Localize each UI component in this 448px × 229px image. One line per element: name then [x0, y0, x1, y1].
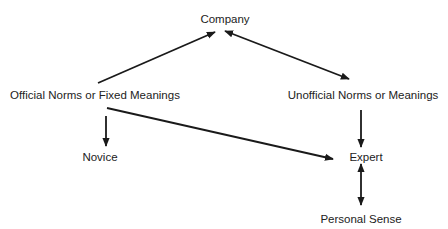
- node-expert: Expert: [349, 150, 382, 164]
- node-unofficial-norms: Unofficial Norms or Meanings: [288, 88, 439, 102]
- diagram-edges: [0, 0, 448, 229]
- node-company: Company: [200, 12, 249, 26]
- node-novice: Novice: [82, 150, 117, 164]
- diagram-canvas: Company Official Norms or Fixed Meanings…: [0, 0, 448, 229]
- edge-official-to-company: [98, 32, 215, 83]
- node-personal-sense: Personal Sense: [320, 212, 401, 226]
- node-official-norms: Official Norms or Fixed Meanings: [10, 88, 180, 102]
- edge-official-to-expert: [107, 108, 333, 159]
- edge-company-unofficial: [225, 31, 349, 79]
